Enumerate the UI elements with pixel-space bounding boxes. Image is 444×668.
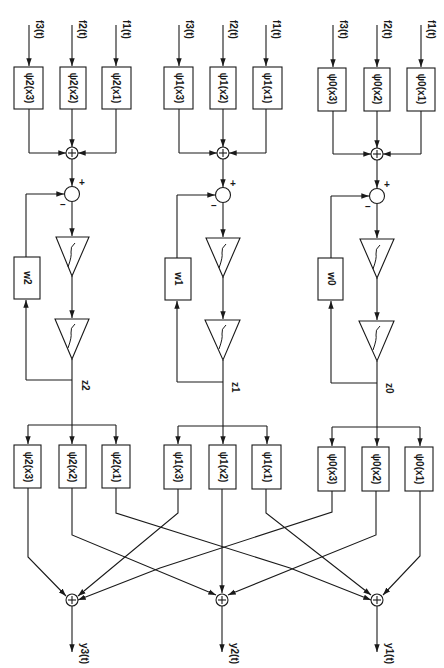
input-label-f1: f1(t): [271, 20, 281, 39]
psi-output-label: ψ2(x3): [23, 452, 33, 483]
input-label-f1: f1(t): [121, 20, 131, 39]
psi-box-label: ψ0(x3): [327, 74, 337, 105]
comparator-junction: [370, 189, 385, 204]
state-label: z2: [80, 380, 90, 391]
output-label-y1: y1(t): [384, 643, 394, 664]
psi-output-label: ψ1(x3): [173, 452, 183, 483]
input-label-f3: f3(t): [338, 20, 348, 39]
psi-output-label: ψ2(x1): [111, 452, 121, 483]
minus-sign: –: [211, 201, 217, 211]
psi-output-label: ψ0(x3): [327, 454, 337, 485]
psi-box-label: ψ2(x2): [68, 73, 78, 104]
output-label-y2: y2(t): [229, 643, 239, 664]
input-label-f1: f1(t): [426, 20, 436, 39]
comparator-junction: [65, 187, 80, 202]
minus-sign: –: [60, 200, 66, 210]
psi-output-label: ψ1(x2): [218, 452, 228, 483]
feedback-gain-label: w2: [22, 271, 32, 284]
psi-output-label: ψ1(x1): [262, 452, 272, 483]
output-summers: [66, 594, 383, 652]
psi-box-label: ψ1(x1): [262, 73, 272, 104]
input-label-f2: f2(t): [77, 20, 87, 39]
integrator-1: [56, 237, 89, 276]
psi-box-label: ψ2(x3): [24, 73, 34, 104]
integrator-2: [205, 320, 240, 360]
input-label-f2: f2(t): [382, 20, 392, 39]
state-label: z1: [230, 382, 240, 393]
psi-box-label: ψ0(x1): [416, 74, 426, 105]
plus-sign: +: [230, 179, 236, 189]
plus-sign: +: [384, 180, 390, 190]
input-label-f3: f3(t): [34, 20, 44, 39]
integrator-2: [359, 321, 394, 361]
psi-output-label: ψ0(x2): [371, 454, 381, 485]
psi-output-label: ψ2(x2): [67, 452, 77, 483]
psi-output-label: ψ0(x1): [414, 454, 424, 485]
cross-wiring: [28, 488, 420, 600]
minus-sign: –: [365, 202, 371, 212]
input-label-f2: f2(t): [228, 20, 238, 39]
state-label: z0: [384, 383, 394, 394]
plus-sign: +: [79, 178, 85, 188]
integrator-1: [360, 239, 394, 278]
psi-box-label: ψ2(x1): [111, 73, 121, 104]
input-label-f3: f3(t): [184, 20, 194, 39]
integrator-2: [55, 319, 89, 359]
psi-box-label: ψ1(x3): [174, 73, 184, 104]
psi-box-label: ψ0(x2): [372, 74, 382, 105]
feedback-gain-label: w0: [326, 272, 336, 285]
psi-box-label: ψ1(x2): [218, 73, 228, 104]
comparator-junction: [216, 188, 231, 203]
feedback-gain-label: w1: [173, 272, 183, 285]
integrator-1: [206, 238, 240, 277]
output-label-y3: y3(t): [79, 643, 89, 664]
